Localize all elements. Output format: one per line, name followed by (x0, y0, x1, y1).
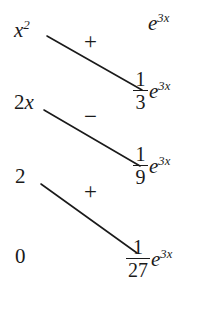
connector-lines-layer (0, 0, 219, 312)
derivative-base-0: x (14, 18, 23, 42)
derivative-coefficient-3: 0 (15, 244, 26, 268)
fraction-denominator-1: 3 (134, 91, 148, 112)
fraction-1: 1 3 (133, 69, 148, 113)
derivative-coefficient-2: 2 (15, 164, 26, 188)
tabular-integration-diagram: x2 2x 2 0 + − + e3x 1 3 e3x 1 9 e3x 1 27 (0, 0, 219, 312)
sign-plus-row-0: + (84, 30, 97, 53)
derivative-coefficient-1: 2 (14, 90, 25, 114)
derivative-term-row-0: x2 (14, 18, 30, 41)
derivative-term-row-1: 2x (14, 92, 34, 113)
integral-term-row-2: 1 9 e3x (133, 144, 170, 188)
derivative-term-row-2: 2 (15, 166, 26, 187)
derivative-exponent-0: 2 (23, 17, 30, 32)
exponential-base-1: e (149, 79, 158, 103)
exponential-exponent-3: 3x (160, 247, 172, 261)
fraction-2: 1 9 (133, 144, 148, 188)
exponential-base-0: e (148, 11, 157, 35)
exponential-base-2: e (149, 154, 158, 178)
exponential-3: e3x (151, 248, 172, 270)
fraction-numerator-1: 1 (134, 69, 148, 90)
fraction-3: 1 27 (126, 237, 150, 281)
sign-minus-row-1: − (84, 105, 97, 128)
integral-term-row-0: e3x (148, 12, 169, 34)
derivative-term-row-3: 0 (15, 246, 26, 267)
exponential-exponent-0: 3x (157, 11, 169, 25)
exponential-1: e3x (149, 80, 170, 102)
exponential-exponent-2: 3x (158, 154, 170, 168)
fraction-numerator-2: 1 (134, 144, 148, 165)
fraction-denominator-3: 27 (126, 259, 150, 280)
sign-plus-row-2: + (84, 180, 97, 203)
exponential-0: e3x (148, 12, 169, 34)
derivative-base-1: x (25, 90, 34, 114)
fraction-numerator-3: 1 (131, 237, 145, 258)
integral-term-row-3: 1 27 e3x (126, 237, 172, 281)
integral-term-row-1: 1 3 e3x (133, 69, 170, 113)
exponential-2: e3x (149, 155, 170, 177)
exponential-base-3: e (151, 247, 160, 271)
exponential-exponent-1: 3x (158, 79, 170, 93)
fraction-denominator-2: 9 (134, 166, 148, 187)
